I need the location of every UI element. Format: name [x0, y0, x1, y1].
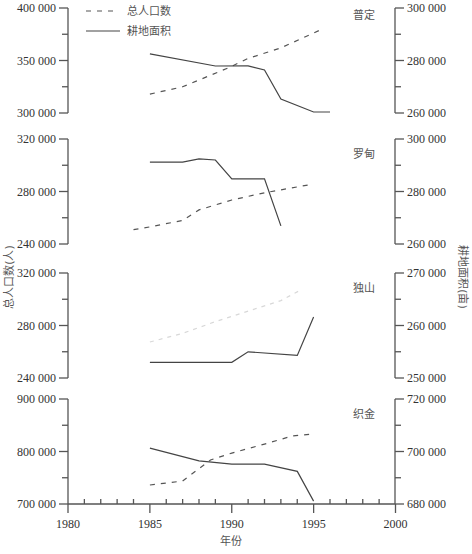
left-tick-label: 900 000 [17, 392, 56, 406]
population-line [150, 434, 314, 485]
x-tick-label: 1985 [138, 517, 162, 531]
population-line [134, 184, 314, 230]
legend-area-label: 耕地面积 [127, 24, 171, 38]
panel-2: 320 000300 000280 000280 000240 000260 0… [17, 132, 446, 251]
multi-panel-line-chart: 总人口数 耕地面积 总人口数(人) 耕地面积(亩) 年份 400 000300 … [0, 0, 472, 554]
left-tick-label: 320 000 [17, 132, 56, 146]
right-tick-label: 680 000 [407, 497, 446, 511]
left-tick-label: 280 000 [17, 185, 56, 199]
left-tick-label: 280 000 [17, 319, 56, 333]
left-tick-label: 350 000 [17, 54, 56, 68]
panel-name-label: 织金 [353, 407, 375, 421]
panel-4: 900 000720 000800 000700 000700 000680 0… [17, 392, 446, 511]
left-tick-label: 240 000 [17, 371, 56, 385]
x-tick-label: 2000 [384, 517, 408, 531]
legend-population-label: 总人口数 [127, 4, 171, 18]
legend: 总人口数 耕地面积 [86, 4, 171, 38]
x-axis-title: 年份 [220, 534, 242, 548]
x-tick-label: 1980 [56, 517, 80, 531]
right-tick-label: 300 000 [407, 1, 446, 15]
left-tick-label: 240 000 [17, 237, 56, 251]
population-line [150, 30, 320, 94]
right-tick-label: 720 000 [407, 392, 446, 406]
right-tick-label: 280 000 [407, 54, 446, 68]
panel-1: 400 000300 000350 000280 000300 000260 0… [17, 1, 446, 120]
left-axis-title: 总人口数(人) [2, 245, 16, 309]
panel-name-label: 独山 [353, 282, 375, 295]
farmland-area-line [150, 159, 281, 226]
chart-container: 总人口数 耕地面积 总人口数(人) 耕地面积(亩) 年份 400 000300 … [0, 0, 472, 554]
farmland-area-line [150, 448, 314, 501]
right-tick-label: 280 000 [407, 185, 446, 199]
left-tick-label: 700 000 [17, 497, 56, 511]
right-tick-label: 260 000 [407, 319, 446, 333]
right-tick-label: 300 000 [407, 132, 446, 146]
right-tick-label: 700 000 [407, 445, 446, 459]
panel-name-label: 普定 [353, 8, 375, 22]
panel-name-label: 罗甸 [353, 148, 375, 161]
left-tick-label: 320 000 [17, 266, 56, 280]
left-tick-label: 400 000 [17, 1, 56, 15]
panel-3: 320 000270 000280 000260 000240 000250 0… [17, 266, 446, 385]
left-tick-label: 300 000 [17, 106, 56, 120]
x-tick-label: 1995 [302, 517, 326, 531]
population-line [150, 290, 301, 342]
x-tick-label: 1990 [220, 517, 244, 531]
right-tick-label: 260 000 [407, 106, 446, 120]
right-tick-label: 250 000 [407, 371, 446, 385]
left-tick-label: 800 000 [17, 445, 56, 459]
farmland-area-line [150, 54, 330, 112]
panels: 400 000300 000350 000280 000300 000260 0… [17, 1, 446, 511]
right-axis-title: 耕地面积(亩) [456, 245, 470, 309]
right-tick-label: 270 000 [407, 266, 446, 280]
x-axis: 19801985199019952000 [56, 499, 408, 531]
farmland-area-line [150, 317, 314, 362]
right-tick-label: 260 000 [407, 237, 446, 251]
